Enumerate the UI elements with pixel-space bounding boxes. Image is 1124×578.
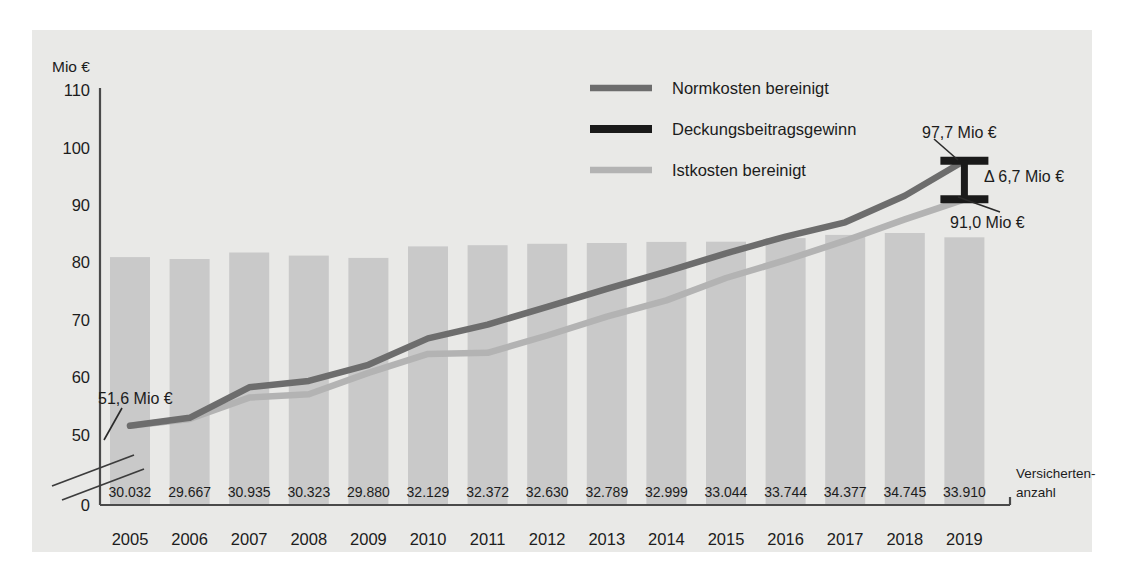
y-tick-110: 110: [64, 81, 90, 99]
deckungsbeitragsgewinn-marker: [940, 161, 988, 200]
bar-2019: [944, 237, 984, 505]
count-label-2016: 33.744: [764, 484, 807, 500]
count-label-2007: 30.935: [228, 484, 271, 500]
count-label-2017: 34.377: [824, 484, 867, 500]
year-label-2019: 2019: [946, 530, 983, 548]
year-label-2010: 2010: [410, 530, 447, 548]
bar-2007: [229, 253, 269, 506]
year-label-2018: 2018: [886, 530, 923, 548]
count-label-2011: 32.372: [466, 484, 509, 500]
chart-page: 11010090807060500 Mio € 30.03229.66730.9…: [0, 0, 1124, 578]
chart-canvas: 11010090807060500 Mio € 30.03229.66730.9…: [0, 0, 1124, 578]
count-label-2009: 29.880: [347, 484, 390, 500]
bar-2010: [408, 246, 448, 505]
versichertenanzahl-label-line2: anzahl: [1016, 485, 1056, 500]
bar-series-versichertenanzahl: [110, 233, 984, 505]
year-label-2015: 2015: [708, 530, 745, 548]
y-tick-70: 70: [72, 311, 90, 329]
count-label-2008: 30.323: [287, 484, 330, 500]
year-label-2008: 2008: [290, 530, 327, 548]
year-label-2013: 2013: [588, 530, 625, 548]
bar-2014: [646, 242, 686, 505]
year-label-2012: 2012: [529, 530, 566, 548]
year-label-2016: 2016: [767, 530, 804, 548]
bar-2012: [527, 244, 567, 505]
year-label-2007: 2007: [231, 530, 268, 548]
y-axis-unit-label: Mio €: [52, 58, 90, 75]
year-label-2011: 2011: [470, 530, 505, 548]
annotation-start-value: 51,6 Mio €: [98, 390, 173, 407]
count-label-2013: 32.789: [585, 484, 628, 500]
x-axis-year-labels: 2005200620072008200920102011201220132014…: [112, 530, 983, 548]
bar-2009: [348, 258, 388, 505]
y-tick-80: 80: [72, 253, 90, 271]
year-label-2009: 2009: [350, 530, 387, 548]
y-axis-tick-labels: 11010090807060500: [62, 81, 90, 514]
legend-label-2: Istkosten bereinigt: [672, 161, 806, 179]
bar-2018: [885, 233, 925, 505]
annotation-top-value: 97,7 Mio €: [922, 124, 997, 141]
annotation-delta-value: Δ 6,7 Mio €: [984, 168, 1064, 185]
year-label-2017: 2017: [827, 530, 864, 548]
y-tick-90: 90: [72, 196, 90, 214]
y-tick-50: 50: [72, 426, 90, 444]
bar-2011: [468, 245, 508, 505]
count-label-2012: 32.630: [526, 484, 569, 500]
legend-label-1: Deckungsbeitragsgewinn: [672, 120, 856, 138]
bar-2006: [170, 259, 210, 505]
bar-2005: [110, 257, 150, 505]
count-label-2014: 32.999: [645, 484, 688, 500]
legend-label-0: Normkosten bereinigt: [672, 79, 829, 97]
versichertenanzahl-label-line1: Versicherten-: [1016, 466, 1096, 481]
year-label-2006: 2006: [171, 530, 208, 548]
count-label-2010: 32.129: [407, 484, 450, 500]
count-label-2019: 33.910: [943, 484, 986, 500]
y-tick-0: 0: [81, 496, 90, 514]
bar-2016: [766, 238, 806, 505]
count-label-2018: 34.745: [883, 484, 926, 500]
year-label-2005: 2005: [112, 530, 149, 548]
y-tick-100: 100: [62, 139, 90, 157]
count-label-2005: 30.032: [109, 484, 152, 500]
y-tick-60: 60: [72, 368, 90, 386]
annotation-bottom-value: 91,0 Mio €: [950, 214, 1025, 231]
chart-legend: Normkosten bereinigtDeckungsbeitragsgewi…: [590, 79, 856, 179]
count-label-2006: 29.667: [168, 484, 211, 500]
insured-count-labels: 30.03229.66730.93530.32329.88032.12932.3…: [109, 484, 986, 500]
bar-2017: [825, 235, 865, 505]
count-label-2015: 33.044: [705, 484, 748, 500]
year-label-2014: 2014: [648, 530, 685, 548]
